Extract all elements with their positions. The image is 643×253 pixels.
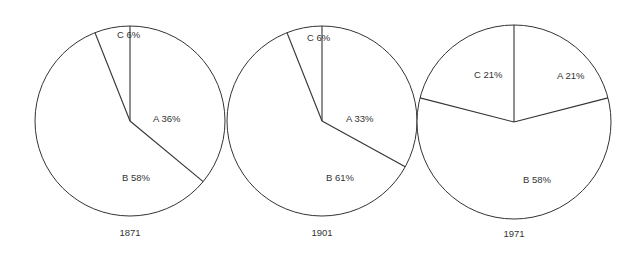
year-label: 1971 bbox=[503, 228, 524, 239]
slice-label-c: C 6% bbox=[307, 32, 331, 43]
slice-label-b: B 58% bbox=[523, 174, 552, 185]
slice-label-a: A 21% bbox=[557, 70, 585, 81]
chart-canvas: A 36% B 58% C 6% 1871 A 33% B 61% C 6% 1… bbox=[0, 0, 643, 253]
slice-label-a: A 36% bbox=[153, 113, 181, 124]
slice-label-a: A 33% bbox=[346, 113, 374, 124]
pie-1901: A 33% B 61% C 6% 1901 bbox=[227, 26, 417, 238]
pie-chart-figure: A 36% B 58% C 6% 1871 A 33% B 61% C 6% 1… bbox=[0, 0, 643, 253]
slice-label-c: C 21% bbox=[474, 69, 503, 80]
slice-label-b: B 61% bbox=[326, 172, 355, 183]
slice-label-b: B 58% bbox=[122, 172, 151, 183]
year-label: 1871 bbox=[119, 227, 140, 238]
pie-1971: A 21% B 58% C 21% 1971 bbox=[417, 25, 611, 239]
pie-1871: A 36% B 58% C 6% 1871 bbox=[35, 26, 225, 238]
year-label: 1901 bbox=[311, 227, 332, 238]
slice-label-c: C 6% bbox=[117, 29, 141, 40]
